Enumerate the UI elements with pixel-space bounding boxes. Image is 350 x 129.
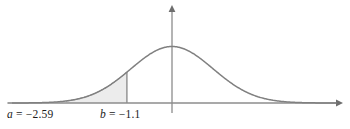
label-b-equals: = <box>106 108 119 120</box>
y-axis-arrowhead <box>169 5 176 12</box>
label-b-value: −1.1 <box>119 108 141 120</box>
shaded-area-between-a-and-b <box>66 72 127 103</box>
x-axis-arrowhead <box>336 100 343 107</box>
normal-distribution-figure: a = −2.59 b = −1.1 <box>0 0 350 129</box>
label-a-value: −2.59 <box>26 108 54 120</box>
label-a-equals: = <box>13 108 26 120</box>
label-a: a = −2.59 <box>7 108 53 120</box>
label-b: b = −1.1 <box>100 108 140 120</box>
